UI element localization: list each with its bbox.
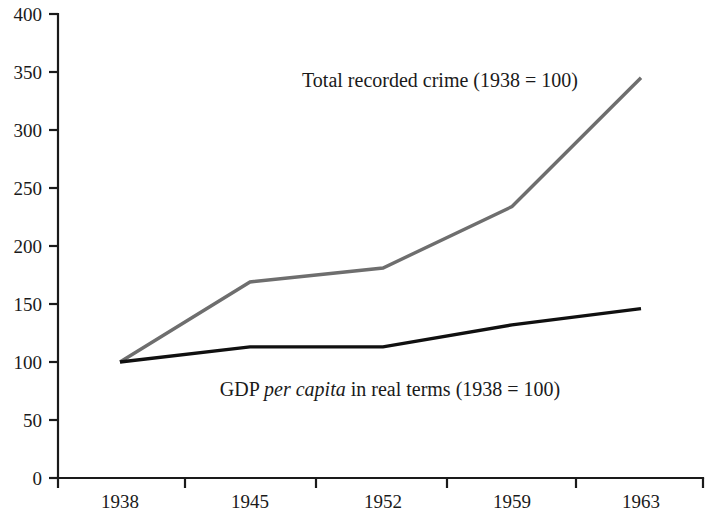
y-tick-label-100: 100 [14, 352, 43, 373]
x-tick-label-1959: 1959 [493, 491, 531, 511]
x-axis-ticks [58, 478, 703, 488]
x-tick-label-1963: 1963 [622, 491, 660, 511]
chart-container: 050100150200250300350400 193819451952195… [0, 0, 706, 511]
y-axis-tick-labels: 050100150200250300350400 [14, 4, 43, 489]
y-axis-ticks [49, 14, 58, 478]
y-tick-label-250: 250 [14, 178, 43, 199]
x-tick-label-1945: 1945 [231, 491, 269, 511]
series-line-gdp-per-capita [120, 309, 641, 362]
x-tick-label-1938: 1938 [101, 491, 139, 511]
x-tick-label-1952: 1952 [364, 491, 402, 511]
y-tick-label-50: 50 [23, 410, 42, 431]
y-tick-label-350: 350 [14, 62, 43, 83]
crime-series-annotation: Total recorded crime (1938 = 100) [302, 69, 578, 92]
gdp-series-annotation: GDP per capita in real terms (1938 = 100… [220, 378, 561, 401]
y-tick-label-200: 200 [14, 236, 43, 257]
y-tick-label-300: 300 [14, 120, 43, 141]
y-tick-label-400: 400 [14, 4, 43, 25]
y-tick-label-150: 150 [14, 294, 43, 315]
x-axis-tick-labels: 19381945195219591963 [101, 491, 660, 511]
line-chart: 050100150200250300350400 193819451952195… [0, 0, 706, 511]
y-tick-label-0: 0 [33, 468, 43, 489]
